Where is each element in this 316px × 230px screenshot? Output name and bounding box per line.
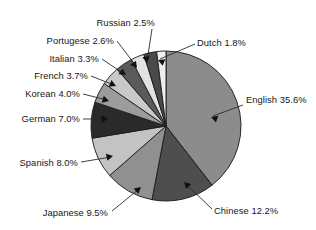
pie-chart-figure: English 35.6%Chinese 12.2%Japanese 9.5%S… (0, 0, 316, 230)
slice-label-dutch: Dutch 1.8% (197, 37, 246, 48)
slice-label-portugese: Portugese 2.6% (47, 35, 114, 46)
language-share-pie-chart: English 35.6%Chinese 12.2%Japanese 9.5%S… (0, 0, 316, 230)
pie-slices (91, 51, 241, 201)
leader-line-japanese (112, 189, 139, 211)
slice-label-russian: Russian 2.5% (97, 17, 155, 28)
slice-label-german: German 7.0% (22, 113, 80, 124)
slice-label-korean: Korean 4.0% (25, 88, 80, 99)
slice-label-chinese: Chinese 12.2% (214, 205, 278, 216)
slice-label-spanish: Spanish 8.0% (20, 157, 78, 168)
slice-label-french: French 3.7% (34, 70, 88, 81)
slice-label-italian: Italian 3.3% (49, 53, 99, 64)
slice-label-english: English 35.6% (246, 94, 307, 105)
slice-label-japanese: Japanese 9.5% (43, 207, 108, 218)
